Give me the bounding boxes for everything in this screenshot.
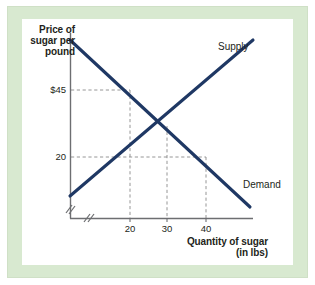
y-tick-label-20: 20 — [30, 151, 66, 162]
x-tick-label-40: 40 — [193, 223, 219, 234]
y-axis-label-line3: pound — [45, 46, 75, 57]
y-tick-label-45: $45 — [30, 84, 66, 95]
economics-supply-demand-figure: Price ofsugar perpound Quantity of sugar… — [0, 0, 315, 285]
y-axis-label: Price ofsugar perpound — [18, 24, 75, 58]
x-tick-label-20: 20 — [117, 223, 143, 234]
x-axis-label-main: Quantity of sugar — [187, 236, 268, 247]
x-tick-label-30: 30 — [154, 223, 180, 234]
x-axis-label-unit: (in lbs) — [236, 247, 268, 258]
guide-lines — [71, 90, 206, 218]
y-axis-label-line2: sugar per — [30, 35, 75, 46]
x-axis-label: Quantity of sugar(in lbs) — [168, 236, 268, 258]
supply-curve-label: Supply — [218, 41, 249, 52]
demand-curve-label: Demand — [243, 179, 281, 190]
y-axis-label-line1: Price of — [39, 24, 75, 35]
